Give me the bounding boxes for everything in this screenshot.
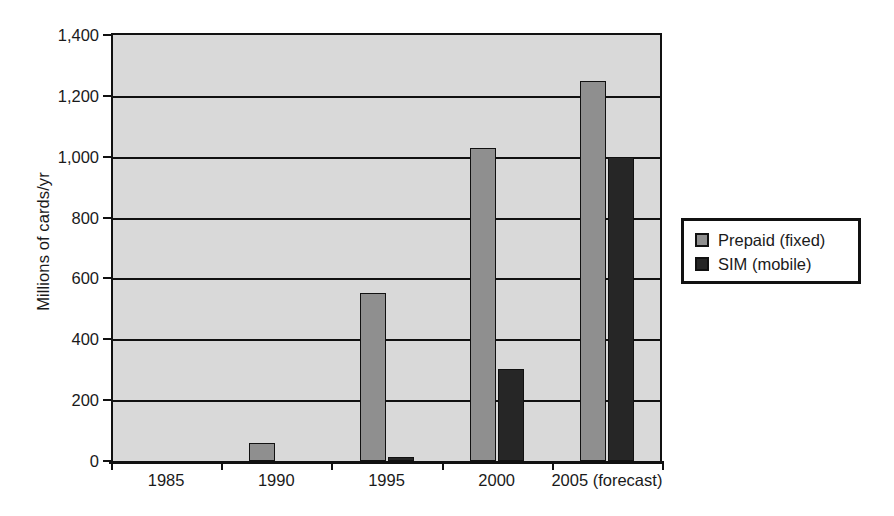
y-axis-tick-label: 200: [19, 392, 99, 409]
chart-legend: Prepaid (fixed) SIM (mobile): [681, 218, 861, 284]
x-axis-tick-label: 2000: [478, 471, 515, 490]
x-axis-tick-mark: [442, 461, 444, 470]
gridline: [113, 157, 660, 159]
y-axis-title: Millions of cards/yr: [34, 82, 53, 402]
legend-label-sim: SIM (mobile): [718, 256, 812, 273]
legend-label-prepaid: Prepaid (fixed): [718, 232, 825, 249]
x-axis-tick-label: 1985: [148, 471, 185, 490]
y-axis-tick-label: 1,000: [19, 148, 99, 165]
y-axis-tick-mark: [103, 95, 112, 97]
bar-chart: Millions of cards/yr 02004006008001,0001…: [0, 0, 894, 516]
gridline: [113, 400, 660, 402]
y-axis-tick-mark: [103, 277, 112, 279]
y-axis-tick-label: 400: [19, 331, 99, 348]
x-axis-tick-label: 1995: [368, 471, 405, 490]
y-axis-tick-mark: [103, 34, 112, 36]
bar-prepaid-1995: [360, 293, 386, 461]
x-axis-tick-mark: [552, 461, 554, 470]
y-axis-tick-label: 1,400: [19, 27, 99, 44]
y-axis-tick-label: 600: [19, 270, 99, 287]
x-axis-tick-label: 2005 (forecast): [551, 471, 662, 490]
legend-item-sim: SIM (mobile): [695, 252, 858, 276]
y-axis-tick-label: 1,200: [19, 88, 99, 105]
y-axis-tick-mark: [103, 217, 112, 219]
bar-sim-2005: [608, 157, 634, 461]
gridline: [113, 218, 660, 220]
legend-swatch-sim-icon: [695, 257, 709, 271]
x-axis-line: [109, 461, 664, 464]
legend-swatch-prepaid-icon: [695, 233, 709, 247]
x-axis-tick-mark: [221, 461, 223, 470]
y-axis-tick-label: 800: [19, 209, 99, 226]
x-axis-tick-mark: [662, 461, 664, 470]
bar-prepaid-2000: [470, 148, 496, 461]
gridline: [113, 339, 660, 341]
y-axis-tick-mark: [103, 399, 112, 401]
bar-prepaid-2005: [580, 81, 606, 461]
y-axis-tick-mark: [103, 156, 112, 158]
legend-item-prepaid: Prepaid (fixed): [695, 228, 858, 252]
gridline: [113, 278, 660, 280]
y-axis-tick-mark: [103, 338, 112, 340]
x-axis-tick-mark: [111, 461, 113, 470]
gridline: [113, 96, 660, 98]
y-axis-tick-label: 0: [19, 453, 99, 470]
bar-sim-1995: [388, 457, 414, 461]
x-axis-tick-label: 1990: [258, 471, 295, 490]
x-axis-tick-mark: [331, 461, 333, 470]
bar-sim-2000: [498, 369, 524, 461]
bar-prepaid-1990: [249, 443, 275, 461]
